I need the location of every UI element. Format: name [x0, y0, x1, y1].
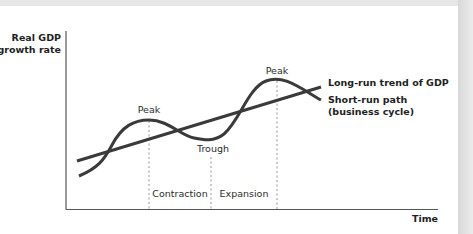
y-axis-label-line2: growth rate — [0, 44, 61, 55]
peak2-label: Peak — [266, 65, 289, 76]
trend-line-label: Long-run trend of GDP — [328, 77, 449, 88]
x-axis-label: Time — [412, 213, 438, 224]
business-cycle-curve — [79, 79, 321, 176]
business-cycle-diagram: Real GDP growth rate Time Peak Trough Pe… — [0, 0, 473, 234]
peak1-label: Peak — [138, 104, 161, 115]
y-axis-label-line1: Real GDP — [12, 32, 61, 43]
cycle-label-line2: (business cycle) — [328, 106, 414, 117]
cycle-label-line1: Short-run path — [328, 94, 408, 105]
trough-label: Trough — [196, 143, 229, 154]
expansion-label: Expansion — [220, 188, 269, 199]
contraction-label: Contraction — [152, 188, 207, 199]
